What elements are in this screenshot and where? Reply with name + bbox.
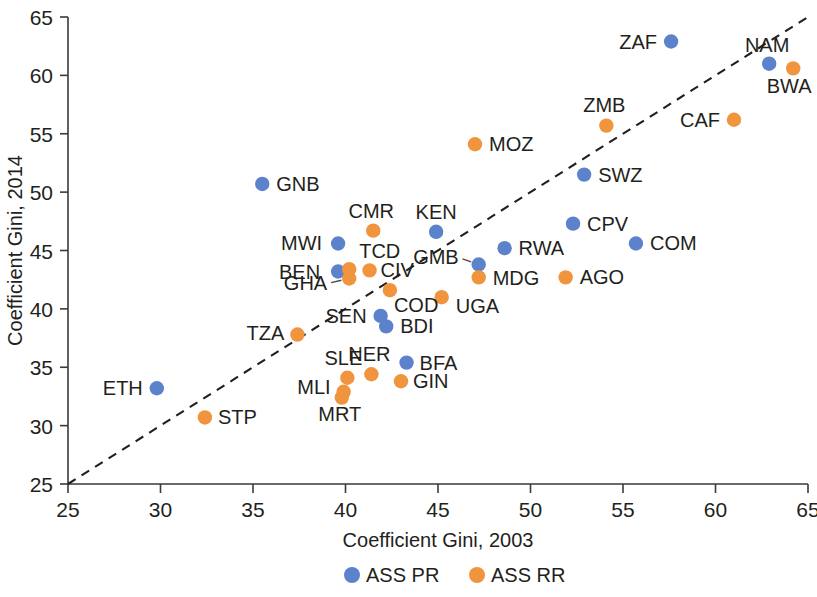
point-label-ago: AGO	[580, 266, 624, 288]
data-point-ner	[364, 367, 378, 381]
legend: ASS PRASS RR	[344, 564, 565, 586]
y-tick-label: 30	[30, 415, 53, 438]
data-point-gha	[342, 271, 356, 285]
y-tick-label: 50	[30, 181, 53, 204]
legend-label-ass-pr: ASS PR	[366, 564, 439, 586]
data-point-caf	[727, 113, 741, 127]
point-label-zmb: ZMB	[583, 94, 625, 116]
y-tick-label: 45	[30, 240, 53, 263]
data-point-mwi	[331, 236, 345, 250]
y-tick-label: 35	[30, 356, 53, 379]
data-point-bwa	[786, 61, 800, 75]
y-tick-label: 55	[30, 123, 53, 146]
point-label-gmb: GMB	[413, 246, 459, 268]
leader-line	[462, 259, 471, 262]
data-point-moz	[468, 137, 482, 151]
data-point-eth	[150, 381, 164, 395]
point-label-eth: ETH	[103, 377, 143, 399]
point-label-swz: SWZ	[598, 164, 642, 186]
point-label-nam: NAM	[745, 34, 789, 56]
data-point-cmr	[366, 223, 380, 237]
point-label-cmr: CMR	[348, 200, 394, 222]
y-tick-label: 60	[30, 64, 53, 87]
data-point-com	[629, 236, 643, 250]
data-point-tza	[290, 327, 304, 341]
legend-swatch-ass-rr	[469, 567, 485, 583]
point-label-mwi: MWI	[281, 232, 322, 254]
x-axis-title: Coefficient Gini, 2003	[343, 529, 534, 551]
data-point-swz	[577, 167, 591, 181]
data-point-rwa	[497, 241, 511, 255]
point-label-zaf: ZAF	[619, 31, 657, 53]
y-axis-title: Coefficient Gini, 2014	[4, 155, 26, 346]
point-label-moz: MOZ	[489, 133, 533, 155]
data-point-gin	[394, 374, 408, 388]
data-point-stp	[198, 410, 212, 424]
data-point-ken	[429, 225, 443, 239]
point-label-com: COM	[650, 232, 697, 254]
x-tick-label: 30	[149, 498, 172, 521]
point-label-ken: KEN	[416, 201, 457, 223]
data-point-mdg	[472, 270, 486, 284]
point-label-gnb: GNB	[276, 173, 319, 195]
x-tick-label: 55	[611, 498, 634, 521]
scatter-plot-figure: 253035404550556065253035404550556065 GNB…	[0, 0, 817, 597]
point-label-bwa: BWA	[767, 75, 812, 97]
point-label-mli: MLI	[297, 376, 330, 398]
plot-svg: 253035404550556065253035404550556065 GNB…	[0, 0, 817, 597]
point-label-sle: SLE	[324, 347, 362, 369]
x-tick-label: 50	[519, 498, 542, 521]
point-label-cod: COD	[394, 294, 438, 316]
point-label-gin: GIN	[413, 370, 449, 392]
y-tick-label: 25	[30, 473, 53, 496]
x-tick-label: 35	[241, 498, 264, 521]
point-label-gha: GHA	[284, 272, 328, 294]
x-tick-label: 25	[56, 498, 79, 521]
legend-label-ass-rr: ASS RR	[491, 564, 565, 586]
data-point-civ	[362, 263, 376, 277]
y-tick-label: 65	[30, 6, 53, 29]
point-label-mdg: MDG	[493, 267, 540, 289]
data-point-cpv	[566, 216, 580, 230]
legend-swatch-ass-pr	[344, 567, 360, 583]
data-point-nam	[762, 57, 776, 71]
point-label-cpv: CPV	[587, 213, 629, 235]
point-label-uga: UGA	[456, 295, 500, 317]
data-points	[150, 34, 801, 424]
data-point-zaf	[664, 34, 678, 48]
point-label-sen: SEN	[326, 305, 367, 327]
y-tick-label: 40	[30, 298, 53, 321]
point-label-mrt: MRT	[318, 403, 361, 425]
point-label-stp: STP	[218, 406, 257, 428]
point-label-caf: CAF	[680, 109, 720, 131]
point-label-tza: TZA	[247, 322, 285, 344]
point-label-rwa: RWA	[519, 237, 565, 259]
data-point-ago	[558, 270, 572, 284]
x-tick-label: 45	[426, 498, 449, 521]
point-label-bdi: BDI	[400, 315, 433, 337]
x-tick-label: 60	[704, 498, 727, 521]
data-point-gnb	[255, 177, 269, 191]
x-tick-label: 65	[796, 498, 817, 521]
data-point-sle	[340, 371, 354, 385]
leader-line	[331, 280, 341, 282]
point-label-civ: CIV	[381, 259, 415, 281]
x-tick-label: 40	[334, 498, 357, 521]
data-point-gmb	[472, 257, 486, 271]
data-point-bfa	[399, 355, 413, 369]
data-point-bdi	[379, 319, 393, 333]
data-point-zmb	[599, 118, 613, 132]
point-labels: GNBZAFNAMSWZCPVCOMRWAKENMWIBENGMBSENBDIB…	[103, 31, 812, 429]
